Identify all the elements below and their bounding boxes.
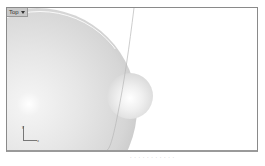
curve-line[interactable] [7, 8, 258, 152]
axis-gizmo: y x [21, 126, 41, 146]
y-axis-label: y [22, 124, 24, 129]
x-axis-line [23, 140, 37, 141]
viewport-title-tab[interactable]: Top [7, 8, 28, 17]
top-viewport[interactable]: Top y x [6, 7, 258, 152]
status-caption: · · · · · · · · · · · [130, 154, 175, 160]
x-axis-label: x [37, 138, 39, 143]
chevron-down-icon[interactable] [21, 11, 25, 14]
viewport-title: Top [9, 8, 19, 16]
